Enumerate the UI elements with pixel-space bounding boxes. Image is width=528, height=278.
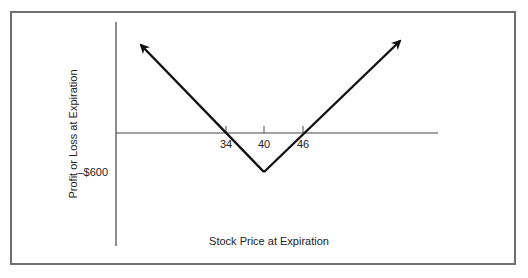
payoff-chart: 34 40 46 –$600 Stock Price at Expiration… (0, 0, 528, 278)
payoff-right-leg (264, 41, 400, 172)
x-tick-label-46: 46 (297, 138, 309, 150)
payoff-left-leg (141, 45, 264, 172)
y-axis-label: Profit or Loss at Expiration (67, 69, 79, 198)
x-tick-label-40: 40 (258, 138, 270, 150)
x-axis-label: Stock Price at Expiration (209, 235, 329, 247)
x-tick-label-34: 34 (220, 138, 232, 150)
y-tick-label: –$600 (77, 166, 108, 178)
